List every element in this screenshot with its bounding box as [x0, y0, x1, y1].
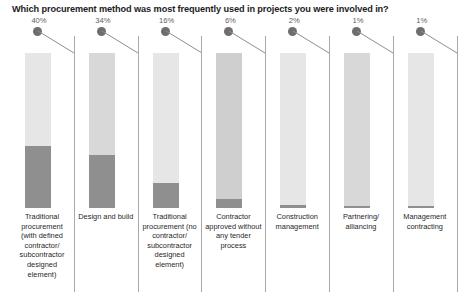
value-label-partnering-alliancing: 1%	[330, 16, 386, 25]
leader-dot-icon-partnering-alliancing	[352, 27, 361, 36]
bar-fill-management-contracting	[408, 206, 434, 208]
bar-track-construction-management[interactable]	[280, 53, 306, 208]
value-label-traditional-no-designed-element: 16%	[139, 16, 195, 25]
value-label-traditional-with-designed-element: 40%	[11, 16, 67, 25]
value-label-contractor-approved-no-tender: 6%	[202, 16, 258, 25]
category-label-contractor-approved-no-tender: Contractor approved without any tender p…	[204, 212, 262, 250]
bar-fill-traditional-no-designed-element	[153, 183, 179, 208]
category-label-management-contracting: Management contracting	[396, 212, 454, 231]
procurement-method-chart: Which procurement method was most freque…	[0, 0, 469, 295]
chart-column-management-contracting[interactable]: 1%Management contracting	[394, 16, 458, 292]
chart-column-contractor-approved-no-tender[interactable]: 6%Contractor approved without any tender…	[202, 16, 266, 292]
bar-fill-partnering-alliancing	[344, 206, 370, 208]
leader-dot-icon-traditional-no-designed-element	[161, 27, 170, 36]
chart-column-design-and-build[interactable]: 34%Design and build	[75, 16, 139, 292]
chart-column-construction-management[interactable]: 2%Construction management	[266, 16, 330, 292]
column-divider-management-contracting	[457, 36, 458, 292]
leader-dot-icon-construction-management	[288, 27, 297, 36]
chart-title: Which procurement method was most freque…	[12, 4, 458, 14]
leader-dot-icon-contractor-approved-no-tender	[224, 27, 233, 36]
chart-plot-area: 40%Traditional procurement (with defined…	[11, 16, 458, 292]
chart-column-traditional-with-designed-element[interactable]: 40%Traditional procurement (with defined…	[11, 16, 75, 292]
category-label-construction-management: Construction management	[268, 212, 326, 231]
chart-column-traditional-no-designed-element[interactable]: 16%Traditional procurement (no contracto…	[139, 16, 203, 292]
bar-fill-contractor-approved-no-tender	[216, 199, 242, 208]
bar-track-partnering-alliancing[interactable]	[344, 53, 370, 208]
category-label-partnering-alliancing: Partnering/ alliancing	[332, 212, 390, 231]
bar-track-management-contracting[interactable]	[408, 53, 434, 208]
value-label-management-contracting: 1%	[394, 16, 450, 25]
chart-column-partnering-alliancing[interactable]: 1%Partnering/ alliancing	[330, 16, 394, 292]
category-label-traditional-with-designed-element: Traditional procurement (with defined co…	[13, 212, 71, 279]
bar-fill-construction-management	[280, 205, 306, 208]
value-label-construction-management: 2%	[266, 16, 322, 25]
value-label-design-and-build: 34%	[75, 16, 131, 25]
leader-dot-icon-traditional-with-designed-element	[33, 27, 42, 36]
category-label-traditional-no-designed-element: Traditional procurement (no contractor/ …	[141, 212, 199, 270]
category-label-design-and-build: Design and build	[77, 212, 135, 222]
bar-track-contractor-approved-no-tender[interactable]	[216, 53, 242, 208]
bar-fill-traditional-with-designed-element	[25, 146, 51, 208]
bar-track-traditional-with-designed-element[interactable]	[25, 53, 51, 208]
bar-fill-design-and-build	[89, 155, 115, 208]
bar-track-design-and-build[interactable]	[89, 53, 115, 208]
bar-track-traditional-no-designed-element[interactable]	[153, 53, 179, 208]
leader-dot-icon-management-contracting	[416, 27, 425, 36]
leader-dot-icon-design-and-build	[97, 27, 106, 36]
